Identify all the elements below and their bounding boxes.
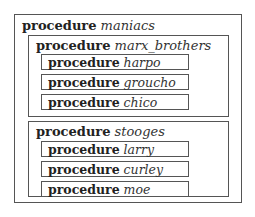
procedure-maniacs-label: procedure maniacs: [22, 19, 155, 33]
procedure-moe-label: procedure moe: [48, 183, 150, 197]
procedure-name: larry: [124, 142, 154, 157]
procedure-marx-brothers-label: procedure marx_brothers: [36, 39, 211, 53]
procedure-larry-box: procedure larry: [41, 141, 189, 157]
keyword: procedure: [22, 18, 96, 33]
procedure-moe-box: procedure moe: [41, 181, 189, 197]
procedure-stooges-box: procedure stooges procedure larry proced…: [28, 121, 229, 197]
procedure-larry-label: procedure larry: [48, 143, 154, 157]
procedure-maniacs-box: procedure maniacs procedure marx_brother…: [14, 14, 242, 203]
procedure-chico-label: procedure chico: [48, 96, 157, 110]
procedure-name: marx_brothers: [115, 38, 212, 53]
procedure-harpo-box: procedure harpo: [41, 54, 189, 70]
procedure-name: moe: [124, 182, 151, 197]
procedure-stooges-label: procedure stooges: [36, 125, 165, 139]
procedure-chico-box: procedure chico: [41, 94, 189, 110]
keyword: procedure: [36, 38, 110, 53]
keyword: procedure: [48, 182, 120, 197]
keyword: procedure: [48, 95, 120, 110]
keyword: procedure: [36, 124, 110, 139]
procedure-name: stooges: [115, 124, 165, 139]
procedure-groucho-label: procedure groucho: [48, 76, 176, 90]
procedure-curley-label: procedure curley: [48, 163, 163, 177]
procedure-name: groucho: [124, 75, 176, 90]
keyword: procedure: [48, 55, 120, 70]
keyword: procedure: [48, 142, 120, 157]
procedure-harpo-label: procedure harpo: [48, 56, 161, 70]
keyword: procedure: [48, 75, 120, 90]
procedure-name: chico: [124, 95, 158, 110]
keyword: procedure: [48, 162, 120, 177]
procedure-groucho-box: procedure groucho: [41, 74, 189, 90]
procedure-name: maniacs: [101, 18, 155, 33]
procedure-name: curley: [124, 162, 163, 177]
procedure-curley-box: procedure curley: [41, 161, 189, 177]
procedure-marx-brothers-box: procedure marx_brothers procedure harpo …: [28, 35, 229, 117]
procedure-name: harpo: [124, 55, 161, 70]
